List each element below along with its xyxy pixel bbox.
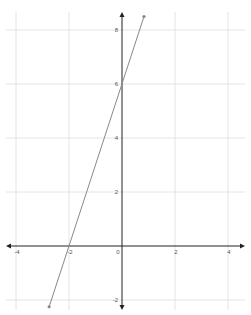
x-tick-label: 4 xyxy=(227,249,231,255)
x-axis-right-arrow-icon xyxy=(240,244,245,249)
grid-lines xyxy=(6,12,245,310)
coordinate-plane: -4-2024-22468 xyxy=(0,0,251,315)
y-tick-label: -2 xyxy=(113,297,119,303)
data-series xyxy=(48,15,146,308)
endpoint-marker xyxy=(48,305,51,308)
axes xyxy=(6,12,245,310)
x-tick-label: 2 xyxy=(174,249,178,255)
y-axis-down-arrow-icon xyxy=(120,305,125,310)
y-axis-up-arrow-icon xyxy=(120,12,125,17)
x-tick-label: -4 xyxy=(14,249,20,255)
x-tick-label: 0 xyxy=(116,249,120,255)
line-series xyxy=(49,17,144,307)
endpoint-marker xyxy=(142,15,145,18)
tick-labels: -4-2024-22468 xyxy=(14,27,231,303)
x-axis-left-arrow-icon xyxy=(6,244,11,249)
